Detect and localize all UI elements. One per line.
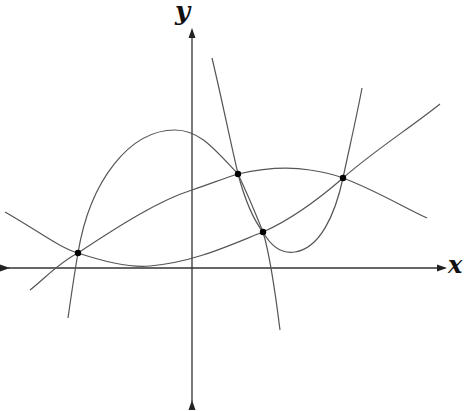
steep-curve — [212, 58, 362, 252]
curves — [5, 58, 440, 330]
intersection-point-3 — [260, 229, 266, 235]
intersection-point-1 — [75, 250, 81, 256]
y-axis-label: y — [175, 0, 190, 26]
upward-curve — [5, 104, 440, 266]
axes — [8, 30, 445, 402]
function-graph-diagram — [0, 0, 465, 411]
intersection-point-4 — [340, 175, 346, 181]
intersection-point-2 — [235, 171, 241, 177]
x-axis-label: x — [448, 250, 462, 279]
cubic-curve — [68, 130, 280, 330]
concave-down-curve — [30, 168, 427, 290]
